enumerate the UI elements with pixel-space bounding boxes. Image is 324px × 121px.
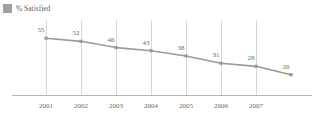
data-label: 38: [178, 45, 185, 52]
data-label: 31: [213, 52, 220, 59]
x-axis-tick-label: 2003: [109, 103, 123, 110]
data-label: 52: [73, 30, 80, 37]
data-point-marker[interactable]: [149, 49, 152, 52]
data-point-marker[interactable]: [219, 62, 222, 65]
data-point-marker[interactable]: [289, 73, 292, 76]
data-point-marker[interactable]: [114, 46, 117, 49]
data-point-marker[interactable]: [254, 65, 257, 68]
data-label: 46: [108, 37, 115, 44]
x-axis-tick-label: 2005: [179, 103, 193, 110]
x-axis-tick-label: 2001: [39, 103, 53, 110]
x-axis-tick-label: 2006: [214, 103, 228, 110]
data-label: 20: [283, 64, 290, 71]
data-point-marker[interactable]: [44, 37, 47, 40]
data-label: 43: [143, 40, 150, 47]
data-point-marker[interactable]: [184, 54, 187, 57]
data-label: 28: [248, 55, 255, 62]
x-axis-tick-label: 2007: [249, 103, 263, 110]
data-label: 55: [38, 27, 45, 34]
chart-container: % Satisfied 5552464338312820 20012002200…: [0, 0, 324, 121]
x-axis-tick-label: 2002: [74, 103, 88, 110]
x-axis-tick-label: 2004: [144, 103, 158, 110]
data-point-marker[interactable]: [79, 40, 82, 43]
